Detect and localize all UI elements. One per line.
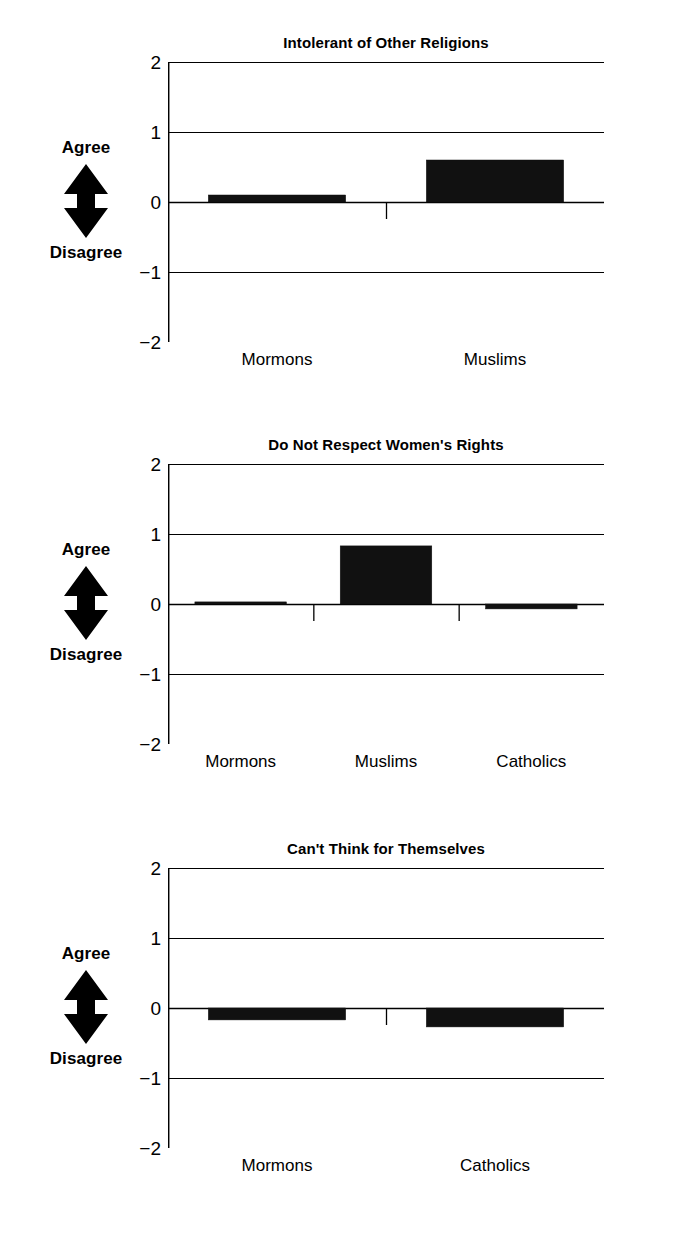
agree-label: Agree bbox=[18, 540, 154, 560]
y-tick-label: 2 bbox=[150, 53, 161, 72]
y-tick-label: −1 bbox=[139, 665, 161, 684]
x-axis-label: Muslims bbox=[464, 350, 526, 370]
x-axis-labels-3: MormonsCatholics bbox=[168, 1156, 604, 1182]
chart-svg bbox=[168, 868, 604, 1148]
double-headed-vertical-arrow-icon bbox=[18, 564, 154, 642]
plot-area-3: 210−1−2 bbox=[168, 868, 604, 1148]
x-axis-label: Catholics bbox=[496, 752, 566, 772]
disagree-label: Disagree bbox=[18, 1049, 154, 1069]
chart-panel-2: Agree Disagree Do Not Respect Women's Ri… bbox=[0, 436, 693, 796]
bar bbox=[340, 546, 432, 604]
plot-area-1: 210−1−2 bbox=[168, 62, 604, 342]
y-tick-label: 1 bbox=[150, 123, 161, 142]
chart-svg bbox=[168, 62, 604, 342]
y-tick-label: 2 bbox=[150, 859, 161, 878]
x-axis-label: Catholics bbox=[460, 1156, 530, 1176]
plot-wrapper-3: Can't Think for Themselves 210−1−2 Mormo… bbox=[168, 840, 604, 1200]
agree-label: Agree bbox=[18, 138, 154, 158]
plot-wrapper-2: Do Not Respect Women's Rights 210−1−2 Mo… bbox=[168, 436, 604, 796]
agree-label: Agree bbox=[18, 944, 154, 964]
y-tick-label: 0 bbox=[150, 595, 161, 614]
plot-area-2: 210−1−2 bbox=[168, 464, 604, 744]
agree-disagree-scale-2: Agree Disagree bbox=[18, 540, 154, 665]
double-headed-vertical-arrow-icon bbox=[18, 968, 154, 1046]
bar bbox=[426, 160, 563, 202]
y-tick-label: −2 bbox=[139, 735, 161, 754]
x-axis-label: Mormons bbox=[205, 752, 276, 772]
y-tick-label: −1 bbox=[139, 263, 161, 282]
disagree-label: Disagree bbox=[18, 645, 154, 665]
agree-disagree-scale-1: Agree Disagree bbox=[18, 138, 154, 263]
x-axis-label: Mormons bbox=[242, 350, 313, 370]
y-tick-label: 0 bbox=[150, 193, 161, 212]
y-tick-label: −2 bbox=[139, 333, 161, 352]
bar bbox=[486, 604, 578, 609]
chart-panel-3: Agree Disagree Can't Think for Themselve… bbox=[0, 840, 693, 1205]
y-tick-label: 0 bbox=[150, 999, 161, 1018]
agree-disagree-scale-3: Agree Disagree bbox=[18, 944, 154, 1069]
y-tick-label: 1 bbox=[150, 525, 161, 544]
bar bbox=[208, 195, 345, 202]
y-tick-label: 2 bbox=[150, 455, 161, 474]
bar bbox=[208, 1008, 345, 1020]
chart-title-3: Can't Think for Themselves bbox=[168, 840, 604, 857]
bar bbox=[426, 1008, 563, 1027]
x-axis-labels-1: MormonsMuslims bbox=[168, 350, 604, 376]
chart-title-1: Intolerant of Other Religions bbox=[168, 34, 604, 51]
y-tick-label: −2 bbox=[139, 1139, 161, 1158]
disagree-label: Disagree bbox=[18, 243, 154, 263]
bar bbox=[195, 602, 287, 604]
y-tick-label: 1 bbox=[150, 929, 161, 948]
x-axis-label: Muslims bbox=[355, 752, 417, 772]
y-tick-label: −1 bbox=[139, 1069, 161, 1088]
double-headed-vertical-arrow-icon bbox=[18, 162, 154, 240]
plot-wrapper-1: Intolerant of Other Religions 210−1−2 Mo… bbox=[168, 34, 604, 394]
x-axis-labels-2: MormonsMuslimsCatholics bbox=[168, 752, 604, 778]
x-axis-label: Mormons bbox=[242, 1156, 313, 1176]
chart-panel-1: Agree Disagree Intolerant of Other Relig… bbox=[0, 34, 693, 394]
chart-title-2: Do Not Respect Women's Rights bbox=[168, 436, 604, 453]
figure-page: Agree Disagree Intolerant of Other Relig… bbox=[0, 0, 693, 1239]
chart-svg bbox=[168, 464, 604, 744]
